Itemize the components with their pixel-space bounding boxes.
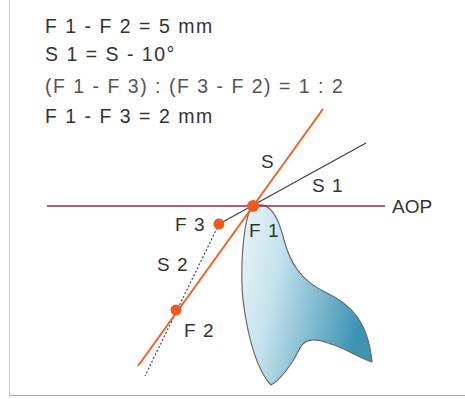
tooth-diagram: S S 1 AOP F 3 F 1 S 2 F 2	[0, 0, 465, 399]
label-aop: AOP	[392, 196, 432, 217]
label-s: S	[261, 151, 275, 172]
point-f2	[171, 305, 182, 316]
label-s2: S 2	[157, 254, 189, 275]
point-f3	[214, 219, 225, 230]
s2-dotted-line	[145, 224, 219, 376]
label-f1: F 1	[249, 220, 279, 241]
label-f2: F 2	[184, 320, 214, 341]
label-f3: F 3	[175, 214, 205, 235]
point-f1	[247, 200, 259, 212]
s1-line	[219, 143, 366, 224]
label-s1: S 1	[312, 175, 344, 196]
